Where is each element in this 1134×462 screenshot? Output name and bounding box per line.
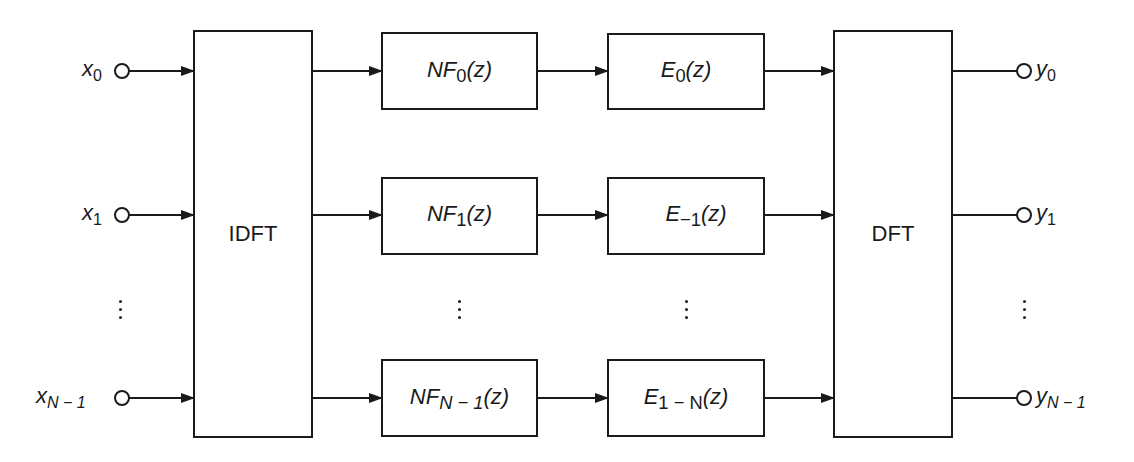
input-label-1: x1 [82, 202, 102, 228]
input-node-1 [115, 208, 129, 222]
ellipsis-inputs [117, 300, 123, 324]
nf-label-1: NF1(z) [382, 203, 537, 230]
block-diagram [0, 0, 1134, 462]
output-label-1: y1 [1036, 202, 1056, 228]
dft-label: DFT [834, 223, 952, 245]
output-node-1 [1017, 208, 1031, 222]
e-label-0: E0(z) [608, 59, 764, 86]
output-label-0: y0 [1036, 58, 1056, 84]
ellipsis-outputs [1021, 300, 1027, 324]
ellipsis-e [683, 300, 689, 324]
output-node-0 [1017, 64, 1031, 78]
e-label-1: E−1(z) [618, 203, 774, 230]
input-label-n-1: xN − 1 [36, 385, 86, 411]
output-node-n-1 [1017, 391, 1031, 405]
output-label-n-1: yN − 1 [1036, 385, 1086, 411]
input-label-0: x0 [82, 58, 102, 84]
input-node-0 [115, 64, 129, 78]
ellipsis-nf [456, 300, 462, 324]
e-label-n-1: E1 − N(z) [608, 386, 764, 413]
idft-label: IDFT [194, 223, 312, 245]
input-node-n-1 [115, 391, 129, 405]
nf-label-n-1: NFN − 1(z) [382, 386, 537, 413]
nf-label-0: NF0(z) [382, 59, 537, 86]
